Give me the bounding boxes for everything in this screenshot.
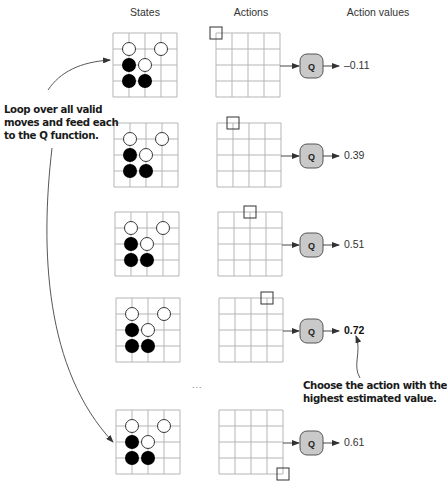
black-stone [123, 148, 137, 162]
loop-annotation-line-2: moves and feed each [4, 116, 118, 129]
black-stone [139, 164, 153, 178]
board-row: Q [114, 117, 339, 187]
black-stone [123, 164, 137, 178]
board-row: Q [116, 292, 339, 362]
black-stone [124, 253, 138, 267]
white-stone [157, 222, 170, 235]
choose-annotation-line-2: highest estimated value. [303, 392, 447, 405]
black-stone [122, 58, 136, 72]
white-stone [125, 222, 138, 235]
black-stone [140, 253, 154, 267]
board-row: Q [116, 410, 339, 480]
white-stone [158, 420, 171, 433]
action-value: –0.11 [344, 59, 370, 71]
q-label: Q [308, 241, 315, 251]
action-value-best: 0.72 [344, 324, 364, 336]
black-stone [125, 339, 139, 353]
black-stone [124, 237, 138, 251]
white-stone [124, 133, 137, 146]
ellipsis: ... [192, 380, 203, 390]
choose-annotation-line-1: Choose the action with the [303, 379, 447, 392]
white-stone [142, 436, 155, 449]
white-stone [126, 420, 139, 433]
black-stone [122, 74, 136, 88]
action-value: 0.39 [344, 149, 364, 161]
black-stone [125, 435, 139, 449]
black-stone [138, 74, 152, 88]
black-stone [141, 451, 155, 465]
board-row: Q [113, 27, 339, 97]
action-value: 0.51 [344, 238, 364, 250]
q-label: Q [308, 62, 315, 72]
loop-annotation-line-3: to the Q function. [4, 129, 118, 142]
white-stone [158, 308, 171, 321]
white-stone [155, 43, 168, 56]
white-stone [142, 324, 155, 337]
white-stone [141, 238, 154, 251]
black-stone [141, 339, 155, 353]
loop-arrow-top [48, 60, 110, 90]
white-stone [156, 133, 169, 146]
loop-arrow-bottom [47, 148, 113, 442]
loop-annotation: Loop over all valid moves and feed each … [4, 103, 118, 142]
q-label: Q [308, 439, 315, 449]
white-stone [126, 308, 139, 321]
choose-annotation: Choose the action with the highest estim… [303, 379, 447, 405]
action-value: 0.61 [344, 436, 364, 448]
choose-arrow [356, 336, 360, 378]
board-row: Q [115, 206, 339, 276]
white-stone [139, 59, 152, 72]
white-stone [140, 149, 153, 162]
black-stone [125, 451, 139, 465]
loop-annotation-line-1: Loop over all valid [4, 103, 118, 116]
white-stone [123, 43, 136, 56]
q-label: Q [308, 327, 315, 337]
black-stone [125, 323, 139, 337]
q-label: Q [308, 152, 315, 162]
